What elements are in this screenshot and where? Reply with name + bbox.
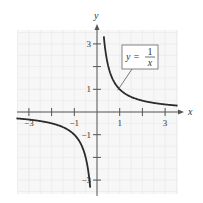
reciprocal-function-plot: −3−11331−1−3 y = 1 x x y	[0, 0, 203, 203]
y-tick-label: 1	[87, 84, 92, 94]
y-axis-label: y	[93, 10, 99, 21]
y-tick-label: −1	[81, 130, 91, 140]
equation-denominator: x	[147, 57, 153, 68]
y-tick-label: 3	[87, 39, 92, 49]
x-axis-label: x	[187, 106, 193, 117]
x-tick-label: −1	[70, 118, 80, 128]
x-tick-label: 1	[117, 118, 122, 128]
y-axis-arrow-icon	[95, 24, 100, 30]
x-axis-arrow-icon	[178, 110, 184, 115]
equation-numerator: 1	[148, 46, 153, 57]
equation-lhs: y =	[125, 51, 140, 62]
x-tick-label: 3	[163, 118, 168, 128]
